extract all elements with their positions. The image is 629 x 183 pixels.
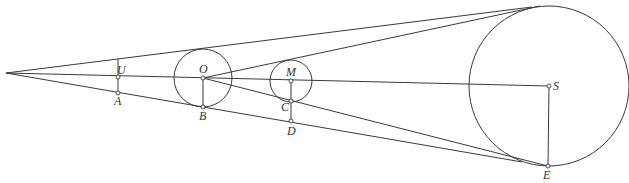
label-s: S [553, 79, 559, 93]
label-e: E [542, 168, 551, 182]
point-c [289, 99, 293, 103]
central-axis-line [6, 73, 549, 86]
segment-s-e [548, 86, 549, 166]
lower-tangent-line [6, 73, 522, 162]
label-c: C [281, 100, 290, 114]
point-m [289, 79, 293, 83]
point-d [289, 119, 293, 123]
label-a: A [113, 94, 122, 108]
upper-tangent-line [6, 7, 532, 73]
geometry-diagram: U A O B M C D S E [0, 0, 629, 183]
point-o [201, 76, 205, 80]
line-o-to-e [203, 78, 548, 166]
label-m: M [285, 65, 297, 79]
point-s [547, 84, 551, 88]
label-d: D [286, 124, 296, 138]
label-b: B [199, 109, 207, 123]
label-o: O [199, 62, 208, 76]
label-u: U [117, 63, 127, 77]
